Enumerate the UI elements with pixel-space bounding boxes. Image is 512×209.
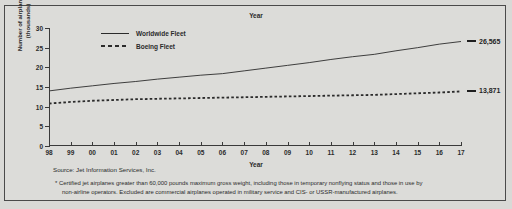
x-tick-label: 10 [306,149,313,156]
end-label-worldwide-fleet: 26,565 [467,38,500,45]
x-tick-label: 00 [89,149,96,156]
x-tick [244,142,245,146]
x-tick [418,142,419,146]
legend-item-worldwide-fleet: Worldwide Fleet [101,30,186,37]
x-tick [331,142,332,146]
x-tick-label: 11 [327,149,334,156]
y-tick-label: 30 [36,25,43,32]
dashed-line-swatch-icon [101,44,129,50]
x-tick-label: 03 [154,149,161,156]
chart-frame: Year Number of airplanes* (thousands) 05… [4,5,506,201]
x-tick [114,142,115,146]
x-tick [309,142,310,146]
x-tick [266,142,267,146]
x-tick [49,142,50,146]
y-tick [45,146,50,147]
solid-line-swatch-icon [101,31,129,37]
y-tick-label: 5 [39,123,43,130]
chart-title-top: Year [5,12,507,19]
legend-label-worldwide-fleet: Worldwide Fleet [136,30,186,37]
x-tick-label: 06 [219,149,226,156]
y-tick-label: 0 [39,143,43,150]
x-tick [461,142,462,146]
x-axis-line [49,145,461,146]
x-tick-label: 16 [436,149,443,156]
x-tick-label: 14 [392,149,399,156]
x-tick [201,142,202,146]
x-tick-label: 12 [349,149,356,156]
x-tick [439,142,440,146]
end-label-boeing-fleet-value: 13,871 [479,87,500,94]
y-tick-label: 10 [36,103,43,110]
x-tick-label: 17 [457,149,464,156]
end-label-worldwide-fleet-value: 26,565 [479,38,500,45]
x-tick [353,142,354,146]
y-tick [45,28,50,29]
y-tick-label: 20 [36,64,43,71]
x-tick-label: 13 [371,149,378,156]
end-label-boeing-fleet: 13,871 [467,87,500,94]
x-tick [374,142,375,146]
x-tick-label: 08 [262,149,269,156]
y-tick [45,87,50,88]
y-axis-title-line1: Number of airplanes* [17,0,23,51]
y-tick-label: 25 [36,44,43,51]
y-tick [45,126,50,127]
y-tick [45,48,50,49]
footnote: * Certified jet airplanes greater than 6… [55,179,485,196]
chart-legend: Worldwide Fleet Boeing Fleet [101,30,186,56]
x-tick [71,142,72,146]
y-tick [45,107,50,108]
legend-label-boeing-fleet: Boeing Fleet [136,43,175,50]
y-axis-title-line2: (thousands) [25,4,31,38]
y-axis-title: Number of airplanes* (thousands) [17,0,32,56]
x-tick-label: 98 [45,149,52,156]
legend-item-boeing-fleet: Boeing Fleet [101,43,186,50]
x-tick [288,142,289,146]
x-tick-label: 04 [175,149,182,156]
x-tick [222,142,223,146]
x-tick-label: 01 [110,149,117,156]
y-tick-label: 15 [36,84,43,91]
leader-dash-icon [467,90,476,92]
x-tick [92,142,93,146]
x-tick [179,142,180,146]
footnote-line-2: non-airline operators. Excluded are comm… [55,188,485,197]
footnote-line-1: * Certified jet airplanes greater than 6… [55,180,422,186]
x-tick-label: 07 [241,149,248,156]
x-tick [396,142,397,146]
source-note: Source: Jet Information Services, Inc. [53,166,156,173]
x-tick-label: 15 [414,149,421,156]
x-tick-label: 02 [132,149,139,156]
x-tick [136,142,137,146]
series-boeing-fleet-line [49,91,461,103]
x-tick-label: 09 [284,149,291,156]
leader-dash-icon [467,40,476,42]
y-tick [45,67,50,68]
x-tick [157,142,158,146]
x-tick-label: 05 [197,149,204,156]
x-tick-label: 99 [67,149,74,156]
